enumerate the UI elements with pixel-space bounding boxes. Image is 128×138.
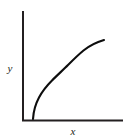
x-axis-label: x bbox=[70, 125, 76, 137]
line-chart-figure: y x bbox=[0, 0, 128, 138]
y-axis-label: y bbox=[7, 62, 13, 74]
